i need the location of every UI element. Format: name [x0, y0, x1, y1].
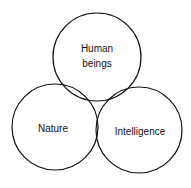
circle-nature: Nature — [12, 84, 98, 170]
three-circle-diagram: Human beings Nature Intelligence — [0, 0, 191, 188]
label-nature: Nature — [38, 123, 68, 134]
label-human: Human — [81, 43, 113, 54]
label-intelligence: Intelligence — [115, 126, 166, 137]
circle-intelligence: Intelligence — [96, 87, 182, 173]
label-beings: beings — [82, 58, 111, 69]
circle-human-beings: Human beings — [53, 13, 141, 101]
circle-shape — [53, 13, 141, 101]
